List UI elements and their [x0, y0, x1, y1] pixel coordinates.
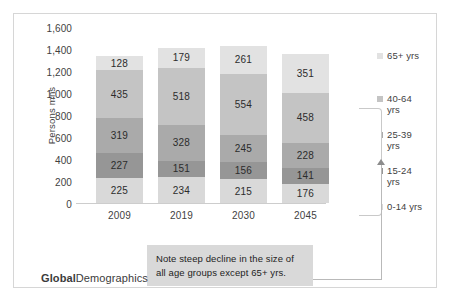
x-axis-label-2019: 2019: [158, 210, 205, 221]
bar-segment-value: 227: [111, 160, 128, 171]
legend-label: 0-14 yrs: [387, 201, 422, 212]
note-line-2: all age groups except 65+ yrs.: [156, 266, 304, 280]
bar-segment-value: 245: [235, 143, 252, 154]
bar-segment-value: 228: [297, 150, 314, 161]
legend-label: 25-39 yrs: [387, 129, 412, 151]
bar-column-2030[interactable]: 261554245156215: [220, 46, 267, 203]
y-axis-tick: 1,600: [46, 23, 72, 34]
y-axis-tick: 1,000: [46, 89, 72, 100]
y-axis-tick: 200: [55, 177, 72, 188]
chart-frame: Persons mns 02004006008001,0001,2001,400…: [13, 13, 437, 288]
bar-segment[interactable]: 215: [220, 179, 267, 203]
bar-segment-value: 435: [111, 89, 128, 100]
callout-connector-horizontal: [313, 279, 382, 280]
bar-segment[interactable]: 328: [158, 125, 205, 161]
bar-segment-value: 176: [297, 188, 314, 199]
legend-item-1524[interactable]: 15-24 yrs: [377, 165, 412, 187]
legend-swatch-icon: [377, 53, 383, 59]
y-axis-tick: 600: [55, 133, 72, 144]
bar-segment-value: 156: [235, 165, 252, 176]
bar-segment[interactable]: 151: [158, 161, 205, 178]
bar-segment-value: 179: [173, 52, 190, 63]
bar-segment[interactable]: 176: [282, 184, 329, 203]
y-axis-tick: 1,200: [46, 67, 72, 78]
bar-segment[interactable]: 128: [96, 56, 143, 70]
bar-segment[interactable]: 234: [158, 177, 205, 203]
bar-segment-value: 458: [297, 112, 314, 123]
callout-connector-vertical: [381, 164, 382, 280]
brand-logo-strong: Global: [41, 272, 76, 284]
x-axis-label-2030: 2030: [220, 210, 267, 221]
bar-segment-value: 328: [173, 137, 190, 148]
legend-label: 65+ yrs: [387, 50, 419, 61]
bar-segment[interactable]: 435: [96, 70, 143, 118]
legend-swatch-icon: [377, 96, 383, 102]
bar-segment[interactable]: 351: [282, 54, 329, 93]
bar-segment[interactable]: 554: [220, 74, 267, 135]
bar-segment[interactable]: 141: [282, 168, 329, 184]
y-axis-tick: 0: [66, 199, 72, 210]
legend-item-014yrs[interactable]: 0-14 yrs: [377, 201, 422, 212]
bar-segment[interactable]: 227: [96, 153, 143, 178]
y-axis-tick: 800: [55, 111, 72, 122]
bar-segment[interactable]: 156: [220, 162, 267, 179]
bar-segment[interactable]: 179: [158, 48, 205, 68]
bar-column-2045[interactable]: 351458228141176: [282, 54, 329, 203]
bar-segment[interactable]: 319: [96, 118, 143, 153]
y-axis-tick: 1,400: [46, 45, 72, 56]
bar-segment-value: 261: [235, 54, 252, 65]
x-axis-label-2045: 2045: [282, 210, 329, 221]
plot-area: 1284353192272252009179518328151234201926…: [76, 28, 326, 204]
bar-segment[interactable]: 458: [282, 93, 329, 143]
legend-item-4064[interactable]: 40-64 yrs: [377, 93, 412, 115]
brand-logo-light: Demographics: [76, 272, 148, 284]
x-axis-label-2009: 2009: [96, 210, 143, 221]
legend-item-65+yrs[interactable]: 65+ yrs: [377, 50, 419, 61]
callout-arrow-icon: [377, 159, 385, 165]
bar-segment[interactable]: 245: [220, 135, 267, 162]
bar-segment[interactable]: 261: [220, 46, 267, 75]
bar-segment[interactable]: 518: [158, 68, 205, 125]
legend-label: 15-24 yrs: [387, 165, 412, 187]
note-callout-box: Note steep decline in the size of all ag…: [147, 245, 313, 286]
legend-item-2539[interactable]: 25-39 yrs: [377, 129, 412, 151]
bar-segment-value: 234: [173, 185, 190, 196]
bar-column-2019[interactable]: 179518328151234: [158, 48, 205, 203]
bar-segment-value: 128: [111, 58, 128, 69]
note-line-1: Note steep decline in the size of: [156, 252, 304, 266]
bar-segment-value: 351: [297, 68, 314, 79]
y-axis-tick-list: 02004006008001,0001,2001,4001,600: [28, 28, 72, 204]
x-axis-line: [76, 203, 326, 204]
bar-segment-value: 151: [173, 163, 190, 174]
bar-segment[interactable]: 225: [96, 178, 143, 203]
bar-segment-value: 141: [297, 170, 314, 181]
bar-segment-value: 215: [235, 186, 252, 197]
bar-segment-value: 518: [173, 91, 190, 102]
bar-column-2009[interactable]: 128435319227225: [96, 56, 143, 203]
bar-segment-value: 554: [235, 99, 252, 110]
bar-segment[interactable]: 228: [282, 143, 329, 168]
legend-label: 40-64 yrs: [387, 93, 412, 115]
bar-segment-value: 319: [111, 130, 128, 141]
y-axis-tick: 400: [55, 155, 72, 166]
brand-logo: GlobalDemographics: [41, 272, 148, 284]
bar-segment-value: 225: [111, 185, 128, 196]
